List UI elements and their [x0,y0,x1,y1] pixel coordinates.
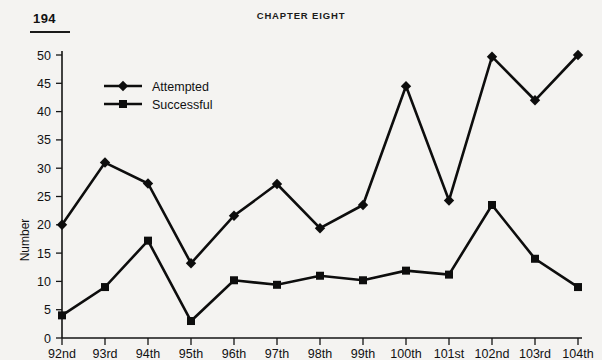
data-point [401,81,411,91]
series-line-successful [62,205,578,321]
y-tick-label: 20 [37,218,51,232]
data-series [57,50,583,325]
x-tick-label: 104th [562,347,593,360]
y-tick-label: 25 [37,190,51,204]
y-tick-label: 50 [37,49,51,63]
x-tick-label: 100th [390,347,421,360]
x-tick-label: 94th [136,347,160,360]
data-point [444,195,454,205]
data-point [273,281,281,289]
series-successful [58,201,582,325]
y-tick-label: 35 [37,133,51,147]
data-point [359,276,367,284]
y-tick-label: 0 [44,332,51,346]
x-tick-label: 93rd [92,347,117,360]
legend-label: Successful [152,98,212,112]
legend-marker [118,81,128,91]
y-tick-label: 30 [37,162,51,176]
data-point [143,178,153,188]
x-axis: 92nd93rd94th95th96th97th98th99th100th101… [48,338,594,360]
data-point [230,276,238,284]
y-axis: 05101520253035404550 [37,49,62,346]
data-point [316,272,324,280]
x-tick-label: 98th [308,347,332,360]
data-point [574,283,582,291]
legend-marker [119,100,127,108]
book-page: 194 CHAPTER EIGHT 05101520253035404550 9… [0,0,602,360]
y-tick-label: 15 [37,247,51,261]
x-tick-label: 102nd [475,347,510,360]
legend-item-successful: Successful [104,98,212,112]
data-point [358,200,368,210]
chart-canvas: 05101520253035404550 92nd93rd94th95th96t… [0,0,602,360]
legend-label: Attempted [152,80,209,94]
y-axis-title: Number [18,219,32,262]
data-point [58,311,66,319]
data-point [187,317,195,325]
x-tick-label: 99th [351,347,375,360]
legend-item-attempted: Attempted [104,80,209,94]
data-point [488,201,496,209]
x-tick-label: 92nd [48,347,76,360]
series-attempted [57,50,583,269]
data-point [531,255,539,263]
x-tick-label: 103rd [519,347,551,360]
x-tick-label: 96th [222,347,246,360]
chart-legend: AttemptedSuccessful [104,80,212,112]
data-point [101,283,109,291]
y-tick-label: 10 [37,275,51,289]
data-point [144,237,152,245]
y-tick-label: 45 [37,77,51,91]
y-tick-label: 40 [37,105,51,119]
x-tick-label: 101st [434,347,465,360]
y-tick-label: 5 [44,303,51,317]
data-point [445,271,453,279]
x-tick-label: 95th [179,347,203,360]
x-tick-label: 97th [265,347,289,360]
data-point [402,267,410,275]
line-chart: 05101520253035404550 92nd93rd94th95th96t… [0,0,602,360]
